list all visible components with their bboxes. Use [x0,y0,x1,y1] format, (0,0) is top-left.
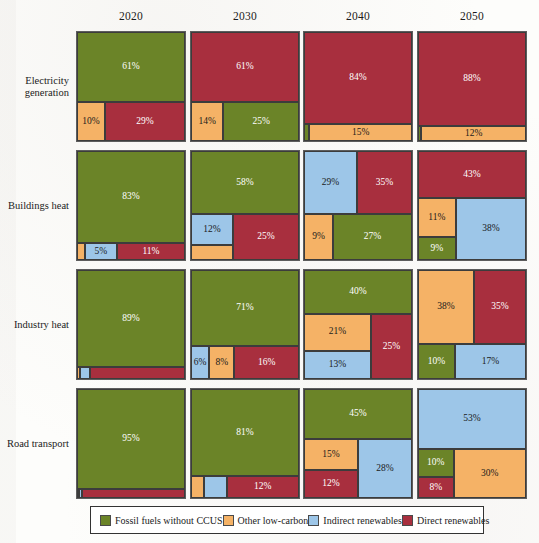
cell-value-label: 10% [427,458,444,468]
cell-value-label: 43% [463,170,480,180]
legend-swatch-lowcarbon [223,515,234,526]
mosaic-cell-lowcarbon: 3% [191,476,204,498]
cell-value-label: 14% [198,117,215,127]
row-label-road-transport: Road transport [3,438,69,450]
mosaic-cell-lowcarbon: 12% [421,126,526,141]
cell-value-label: 84% [349,73,366,83]
mosaic-cell-direct: 35% [357,151,412,214]
mosaic-cell-direct: 29% [105,102,185,141]
legend-swatch-direct [402,515,413,526]
column-header-2040: 2040 [303,10,413,22]
mosaic-cell-indirect: 5% [85,243,117,260]
mosaic-cell-fossil: 61% [77,32,185,102]
legend-item-fossil: Fossil fuels without CCUS [100,515,223,526]
mosaic-cell-direct: 8% [418,477,454,498]
panel-electricity-generation-2040: 84%1%15% [303,31,413,142]
mosaic-cell-fossil: 45% [304,389,412,439]
mosaic-cell-fossil: 9% [418,237,456,260]
cell-value-label: 8% [215,358,228,368]
mosaic-cell-fossil: 27% [333,214,412,260]
row-label-electricity-generation: Electricity generation [3,75,69,99]
legend-label-lowcarbon: Other low-carbon [238,515,309,526]
mosaic-cell-direct: 25% [371,314,412,379]
mosaic-cell-direct: 88% [418,32,526,126]
cell-value-label: 61% [236,62,253,72]
legend-label-fossil: Fossil fuels without CCUS [115,515,223,526]
mosaic-cell-lowcarbon: 15% [309,124,412,141]
mosaic-cell-direct: 16% [234,346,299,379]
mosaic-cell-indirect: 17% [455,344,526,379]
row-label-industry-heat: Industry heat [3,319,69,331]
cell-value-label: 6% [194,358,207,368]
mosaic-cell-direct: 43% [418,151,526,198]
mosaic-cell-direct: 84% [304,32,412,124]
mosaic-cell-lowcarbon: 21% [304,314,371,351]
mosaic-cell-direct: 25% [233,214,299,260]
cell-value-label: 11% [428,213,445,223]
mosaic-cell-indirect: 13% [304,351,371,379]
cell-value-label: 29% [322,178,339,188]
mosaic-cell-fossil: 95% [77,389,185,489]
mosaic-cell-direct: 35% [474,270,526,344]
mosaic-cell-fossil: 10% [418,449,454,477]
cell-value-label: 81% [236,428,253,438]
mosaic-cell-fossil: 81% [191,389,299,476]
mosaic-cell-lowcarbon: 5% [191,245,233,260]
cell-value-label: 89% [122,314,139,324]
mosaic-chart: 2020203020402050Electricity generationBu… [0,0,539,543]
cell-value-label: 35% [376,178,393,188]
cell-value-label: 30% [481,469,498,479]
mosaic-cell-lowcarbon: 11% [418,198,456,237]
cell-value-label: 13% [329,360,346,370]
mosaic-cell-indirect: 2% [80,367,90,379]
cell-value-label: 58% [236,178,253,188]
panel-buildings-heat-2050: 43%11%9%38% [417,150,527,261]
mosaic-cell-lowcarbon: 15% [304,439,358,470]
cell-value-label: 25% [383,342,400,352]
cell-value-label: 28% [376,464,393,474]
mosaic-cell-lowcarbon: 9% [304,214,333,260]
mosaic-cell-lowcarbon: 1% [77,243,85,260]
cell-value-label: 12% [203,225,220,235]
legend-swatch-fossil [100,515,111,526]
mosaic-cell-direct: 8% [90,367,185,379]
cell-value-label: 38% [482,224,499,234]
mosaic-cell-direct: 11% [117,243,185,260]
legend-label-direct: Direct renewables [417,515,489,526]
legend-item-lowcarbon: Other low-carbon [223,515,309,526]
mosaic-cell-lowcarbon: 10% [77,102,105,141]
cell-value-label: 95% [122,434,139,444]
mosaic-cell-fossil: 83% [77,151,185,243]
cell-value-label: 40% [349,287,366,297]
column-header-2020: 2020 [76,10,186,22]
cell-value-label: 15% [352,128,369,138]
panel-road-transport-2050: 53%10%8%30% [417,388,527,499]
mosaic-cell-fossil: 71% [191,270,299,346]
mosaic-cell-direct: 61% [191,32,299,102]
mosaic-cell-lowcarbon: 14% [191,102,223,141]
mosaic-cell-lowcarbon: 8% [209,346,234,379]
panel-buildings-heat-2030: 58%12%5%25% [190,150,300,261]
legend-item-direct: Direct renewables [402,515,489,526]
cell-value-label: 10% [428,357,445,367]
mosaic-cell-direct: 3% [82,489,185,498]
cell-value-label: 12% [322,479,339,489]
panel-electricity-generation-2050: 88%0%12% [417,31,527,142]
cell-value-label: 88% [463,74,480,84]
mosaic-cell-fossil: 58% [191,151,299,214]
cell-value-label: 25% [257,232,274,242]
mosaic-cell-fossil: 40% [304,270,412,314]
chart-legend: Fossil fuels without CCUSOther low-carbo… [90,506,484,534]
mosaic-cell-indirect: 4% [204,476,227,498]
panel-road-transport-2040: 45%15%12%28% [303,388,413,499]
cell-value-label: 29% [136,117,153,127]
mosaic-cell-indirect: 12% [191,214,233,245]
mosaic-cell-fossil: 25% [223,102,299,141]
panel-road-transport-2030: 81%3%4%12% [190,388,300,499]
panel-buildings-heat-2020: 83%1%5%11% [76,150,186,261]
panel-road-transport-2020: 95%1%1%3% [76,388,186,499]
cell-value-label: 38% [437,302,454,312]
cell-value-label: 9% [431,244,444,254]
cell-value-label: 25% [252,117,269,127]
mosaic-cell-fossil: 10% [418,344,455,379]
